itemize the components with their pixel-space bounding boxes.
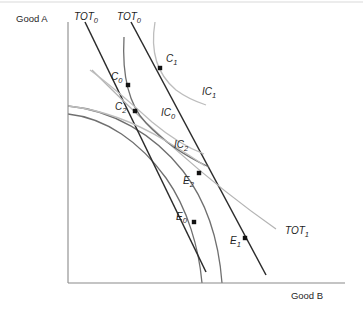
data-point-e2: [197, 171, 201, 175]
y-axis-label: Good A: [16, 13, 48, 24]
data-point-e0: [192, 220, 196, 224]
data-point-e1: [243, 236, 247, 240]
trade-indifference-diagram: C0C1C2E2E0E1 Good A Good B TOT0TOT0TOT1I…: [0, 0, 363, 317]
data-point-c2: [133, 109, 137, 113]
data-point-c0: [126, 83, 130, 87]
x-axis-label: Good B: [291, 290, 323, 301]
data-point-c1: [158, 66, 162, 70]
figure-background: [0, 0, 363, 317]
